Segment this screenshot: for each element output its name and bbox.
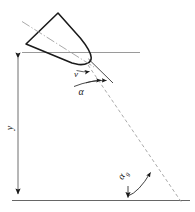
attack-angle-label: α [78, 86, 84, 97]
height-label: y [4, 125, 15, 131]
height-label-group: y [4, 125, 15, 131]
trajectory-dashed-line [88, 65, 182, 203]
velocity-label: v [74, 69, 78, 79]
projectile-diagram-canvas: v α α g y [0, 0, 195, 212]
projectile-axis-line [22, 22, 94, 68]
velocity-angle-arc [77, 71, 90, 72]
projectile-diagram: v α α g y [0, 0, 195, 212]
ground-angle-arc [128, 173, 151, 197]
projectile-body-outline [26, 13, 91, 65]
ground-angle-label-group: α g [115, 167, 131, 182]
